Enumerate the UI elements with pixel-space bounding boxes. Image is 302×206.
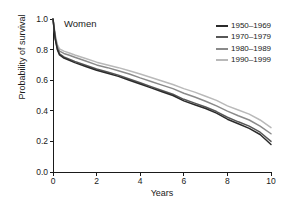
axis-spines bbox=[53, 19, 271, 172]
survival-chart-figure: Probability of survival Years 1.0 0.8 0.… bbox=[0, 0, 302, 206]
plot-area bbox=[0, 0, 302, 206]
axis-ticks bbox=[50, 19, 272, 176]
survival-curve bbox=[53, 19, 271, 128]
survival-curve bbox=[53, 19, 271, 134]
survival-curves bbox=[53, 19, 271, 144]
